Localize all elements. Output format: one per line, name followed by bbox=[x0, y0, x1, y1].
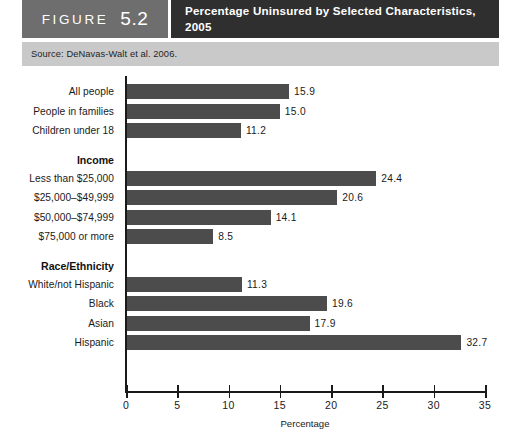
bar-row: $75,000 or more8.5 bbox=[0, 229, 519, 244]
bar-category-label: $25,000–$49,999 bbox=[0, 190, 120, 205]
bar-row: All people15.9 bbox=[0, 84, 519, 99]
x-axis-tick bbox=[280, 385, 282, 398]
bar bbox=[126, 104, 280, 119]
bar-row: $25,000–$49,99920.6 bbox=[0, 190, 519, 205]
bar bbox=[126, 335, 461, 350]
x-axis-tick-label: 5 bbox=[174, 399, 180, 411]
bar bbox=[126, 210, 271, 225]
figure-title-block: Percentage Uninsured by Selected Charact… bbox=[171, 0, 499, 38]
y-axis-line bbox=[125, 76, 127, 391]
x-axis-tick-label: 20 bbox=[325, 399, 337, 411]
x-axis-tick bbox=[229, 385, 231, 398]
figure-number-label: 5.2 bbox=[120, 8, 148, 30]
x-axis-tick-label: 10 bbox=[222, 399, 234, 411]
x-axis-tick-label: 0 bbox=[123, 399, 129, 411]
x-axis-tick bbox=[177, 385, 179, 398]
bar-category-label: $50,000–$74,999 bbox=[0, 210, 120, 225]
bar-value-label: 24.4 bbox=[381, 171, 402, 186]
group-header-race-ethnicity: Race/Ethnicity bbox=[0, 260, 120, 272]
bar-value-label: 15.9 bbox=[294, 84, 315, 99]
x-axis-label: Percentage bbox=[280, 418, 329, 429]
bar-row: Hispanic32.7 bbox=[0, 335, 519, 350]
figure-word-label: FIGURE bbox=[42, 12, 109, 27]
bar-category-label: Hispanic bbox=[0, 335, 120, 350]
bar-value-label: 20.6 bbox=[342, 190, 363, 205]
bar-row: People in families15.0 bbox=[0, 104, 519, 119]
bar-row: Black19.6 bbox=[0, 296, 519, 311]
bar-category-label: All people bbox=[0, 84, 120, 99]
figure-number-block: FIGURE 5.2 bbox=[22, 0, 171, 38]
bar-category-label: White/not Hispanic bbox=[0, 277, 120, 292]
bar-value-label: 17.9 bbox=[315, 316, 336, 331]
bar bbox=[126, 171, 376, 186]
bar-category-label: People in families bbox=[0, 104, 120, 119]
x-axis-tick bbox=[485, 385, 487, 398]
bar-value-label: 14.1 bbox=[276, 210, 297, 225]
x-axis-tick bbox=[382, 385, 384, 398]
bar-value-label: 8.5 bbox=[218, 229, 233, 244]
bar bbox=[126, 84, 289, 99]
x-axis-tick-label: 25 bbox=[376, 399, 388, 411]
bar-value-label: 15.0 bbox=[285, 104, 306, 119]
group-header-income: Income bbox=[0, 154, 120, 166]
bar-value-label: 11.2 bbox=[246, 123, 266, 138]
bar-row: Asian17.9 bbox=[0, 316, 519, 331]
plot-area: All people15.9People in families15.0Chil… bbox=[0, 66, 519, 447]
bar bbox=[126, 316, 310, 331]
bar-category-label: Black bbox=[0, 296, 120, 311]
bar-category-label: Asian bbox=[0, 316, 120, 331]
x-axis-tick bbox=[126, 385, 128, 398]
figure-header: FIGURE 5.2 Percentage Uninsured by Selec… bbox=[22, 0, 499, 38]
bar-category-label: Less than $25,000 bbox=[0, 171, 120, 186]
bar-category-label: Children under 18 bbox=[0, 123, 120, 138]
x-axis-tick bbox=[331, 385, 333, 398]
bar bbox=[126, 296, 327, 311]
bar bbox=[126, 190, 337, 205]
x-axis-line bbox=[125, 391, 485, 393]
source-band: Source: DeNavas-Walt et al. 2006. bbox=[22, 42, 499, 66]
bar bbox=[126, 123, 241, 138]
bar-row: Children under 1811.2 bbox=[0, 123, 519, 138]
x-axis-tick-label: 30 bbox=[427, 399, 439, 411]
bar bbox=[126, 277, 242, 292]
x-axis-tick-label: 15 bbox=[274, 399, 286, 411]
bar-category-label: $75,000 or more bbox=[0, 229, 120, 244]
x-axis-tick bbox=[434, 385, 436, 398]
bar-row: White/not Hispanic11.3 bbox=[0, 277, 519, 292]
bar-chart: All people15.9People in families15.0Chil… bbox=[0, 66, 519, 447]
bar-row: Less than $25,00024.4 bbox=[0, 171, 519, 186]
bar-value-label: 32.7 bbox=[466, 335, 487, 350]
bar-row: $50,000–$74,99914.1 bbox=[0, 210, 519, 225]
bar-value-label: 11.3 bbox=[247, 277, 267, 292]
x-axis-tick-label: 35 bbox=[479, 399, 491, 411]
source-text: Source: DeNavas-Walt et al. 2006. bbox=[22, 49, 177, 59]
bar bbox=[126, 229, 213, 244]
bar-value-label: 19.6 bbox=[332, 296, 353, 311]
figure-title: Percentage Uninsured by Selected Charact… bbox=[185, 3, 491, 35]
